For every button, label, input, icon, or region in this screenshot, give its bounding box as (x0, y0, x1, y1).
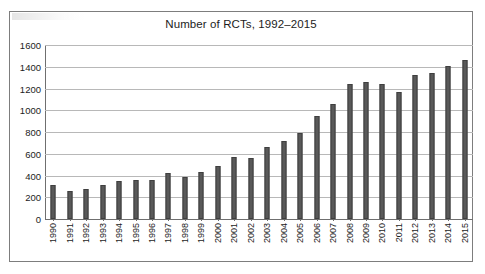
x-tick-mark (119, 219, 120, 221)
bar-slot: 1990 (45, 45, 61, 219)
x-tick-mark (152, 219, 153, 221)
x-tick-label: 1997 (163, 223, 173, 243)
x-tick-mark (185, 219, 186, 221)
bar[interactable] (133, 180, 138, 219)
bar[interactable] (51, 185, 56, 219)
x-tick-mark (103, 219, 104, 221)
bar-slot: 2014 (440, 45, 456, 219)
x-tick-label: 2014 (443, 223, 453, 243)
x-tick-label: 2006 (312, 223, 322, 243)
x-tick-mark (201, 219, 202, 221)
bar[interactable] (117, 181, 122, 219)
bar-slot: 2007 (325, 45, 341, 219)
bar[interactable] (199, 172, 204, 219)
bar-slot: 1994 (111, 45, 127, 219)
x-tick-label: 2004 (279, 223, 289, 243)
x-tick-label: 1998 (180, 223, 190, 243)
x-tick-mark (86, 219, 87, 221)
y-tick-label: 0 (36, 214, 41, 225)
x-tick-label: 2009 (361, 223, 371, 243)
x-tick-label: 2010 (377, 223, 387, 243)
bar-slot: 2011 (391, 45, 407, 219)
x-tick-label: 2012 (410, 223, 420, 243)
bar-slot: 1993 (94, 45, 110, 219)
bar[interactable] (248, 158, 253, 219)
bar-slot: 2010 (374, 45, 390, 219)
x-tick-label: 2013 (427, 223, 437, 243)
bar[interactable] (446, 66, 451, 219)
bar-slot: 2002 (243, 45, 259, 219)
x-tick-mark (448, 219, 449, 221)
y-tick-label: 200 (25, 192, 41, 203)
x-tick-label: 2015 (460, 223, 470, 243)
y-tick-label: 1000 (20, 105, 41, 116)
bar[interactable] (84, 189, 89, 219)
x-tick-mark (251, 219, 252, 221)
y-tick-label: 600 (25, 148, 41, 159)
bar[interactable] (149, 180, 154, 219)
bar-slot: 1997 (160, 45, 176, 219)
bar[interactable] (429, 73, 434, 219)
x-tick-label: 2011 (394, 223, 404, 242)
y-tick-label: 1200 (20, 83, 41, 94)
y-tick-label: 1400 (20, 61, 41, 72)
x-tick-label: 1994 (114, 223, 124, 243)
x-tick-mark (53, 219, 54, 221)
bar-slot: 1998 (177, 45, 193, 219)
y-tick-label: 800 (25, 127, 41, 138)
bar-slot: 2004 (275, 45, 291, 219)
x-tick-label: 1993 (98, 223, 108, 243)
bar[interactable] (232, 157, 237, 219)
x-tick-mark (234, 219, 235, 221)
bar-slot: 2006 (308, 45, 324, 219)
bar[interactable] (396, 92, 401, 219)
x-tick-label: 2001 (229, 223, 239, 243)
x-tick-mark (465, 219, 466, 221)
x-tick-label: 2005 (295, 223, 305, 243)
chart-figure: Number of RCTs, 1992–2015 02004006008001… (9, 11, 473, 262)
bar[interactable] (265, 147, 270, 219)
x-tick-mark (136, 219, 137, 221)
bar[interactable] (363, 82, 368, 219)
y-tick-label: 400 (25, 170, 41, 181)
x-tick-mark (300, 219, 301, 221)
x-tick-mark (218, 219, 219, 221)
x-tick-label: 1990 (48, 223, 58, 243)
bar[interactable] (331, 104, 336, 219)
bar[interactable] (182, 177, 187, 219)
x-tick-mark (168, 219, 169, 221)
x-tick-label: 1992 (81, 223, 91, 243)
bar[interactable] (413, 75, 418, 219)
bar[interactable] (298, 133, 303, 219)
bar[interactable] (215, 166, 220, 219)
bar-slot: 1995 (127, 45, 143, 219)
bar-slot: 1992 (78, 45, 94, 219)
bar[interactable] (314, 116, 319, 219)
bar-slot: 2008 (341, 45, 357, 219)
chart-title: Number of RCTs, 1992–2015 (10, 18, 472, 30)
x-tick-mark (267, 219, 268, 221)
bar[interactable] (462, 60, 467, 219)
bar[interactable] (347, 84, 352, 219)
bar-slot: 2005 (292, 45, 308, 219)
bar[interactable] (166, 173, 171, 219)
x-tick-label: 2007 (328, 223, 338, 243)
y-tick-label: 1600 (20, 40, 41, 51)
x-tick-label: 2008 (345, 223, 355, 243)
bar[interactable] (281, 141, 286, 219)
x-axis-baseline: 0 (45, 219, 473, 220)
x-tick-label: 2002 (246, 223, 256, 243)
bar[interactable] (67, 191, 72, 219)
x-tick-label: 1996 (147, 223, 157, 243)
x-tick-label: 1999 (196, 223, 206, 243)
x-tick-mark (350, 219, 351, 221)
x-tick-mark (366, 219, 367, 221)
bar[interactable] (100, 185, 105, 219)
x-tick-mark (70, 219, 71, 221)
bar-slot: 1999 (193, 45, 209, 219)
bar-slot: 2013 (424, 45, 440, 219)
bar-slot: 1991 (61, 45, 77, 219)
x-tick-mark (399, 219, 400, 221)
bar[interactable] (380, 84, 385, 219)
bar-slot: 2009 (358, 45, 374, 219)
